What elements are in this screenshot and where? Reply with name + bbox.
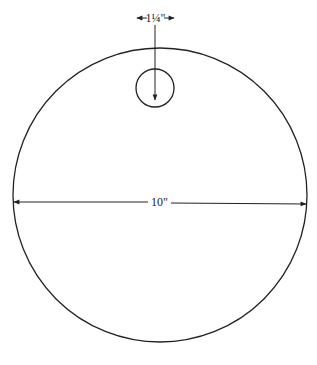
small-diameter-dimension: 1¼"	[137, 11, 174, 100]
large-diameter-dimension: 10"	[14, 195, 306, 209]
small-diameter-label: 1¼"	[146, 11, 166, 25]
diagram-canvas: 1¼" 10"	[0, 0, 317, 365]
large-diameter-label: 10"	[151, 195, 168, 209]
